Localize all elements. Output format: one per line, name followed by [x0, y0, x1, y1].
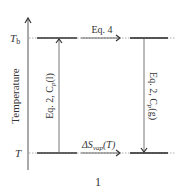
eq4-label: Eq. 4 [91, 24, 112, 35]
thermodynamic-cycle-diagram: Temperature Tb T Eq. 4 ΔSvap(T) Eq. 2, C… [0, 0, 188, 191]
level-label-t: T [15, 147, 22, 159]
level-label-tb: Tb [10, 32, 20, 46]
dsvap-label: ΔSvap(T) [81, 139, 116, 152]
figure-number: 1 [95, 175, 101, 189]
axis-label: Temperature [9, 68, 21, 124]
gas-cooling-label: Eq. 2, Cp(g) [146, 72, 159, 120]
liquid-heating-label: Eq. 2, Cp(l) [44, 73, 57, 119]
